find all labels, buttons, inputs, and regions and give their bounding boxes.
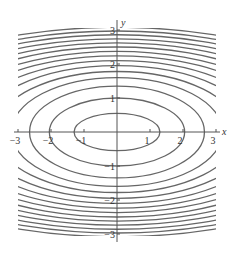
y-tick-label: −1 bbox=[104, 161, 115, 172]
x-tick-label: −1 bbox=[76, 135, 87, 146]
y-tick-label: −2 bbox=[104, 195, 115, 206]
tick-labels: −3−2−1123−3−2−1123xy bbox=[10, 17, 227, 240]
y-tick-label: 1 bbox=[110, 93, 115, 104]
y-tick-label: 3 bbox=[110, 25, 115, 36]
x-tick-label: 1 bbox=[145, 135, 150, 146]
y-tick-label: 2 bbox=[110, 59, 115, 70]
contour-plot: −3−2−1123−3−2−1123xy bbox=[0, 0, 240, 254]
x-tick-label: 2 bbox=[178, 135, 183, 146]
x-tick-label: −2 bbox=[43, 135, 54, 146]
y-axis-label: y bbox=[120, 17, 126, 28]
x-tick-label: 3 bbox=[211, 135, 216, 146]
x-axis-label: x bbox=[221, 126, 227, 137]
y-tick-label: −3 bbox=[104, 229, 115, 240]
x-tick-label: −3 bbox=[10, 135, 21, 146]
